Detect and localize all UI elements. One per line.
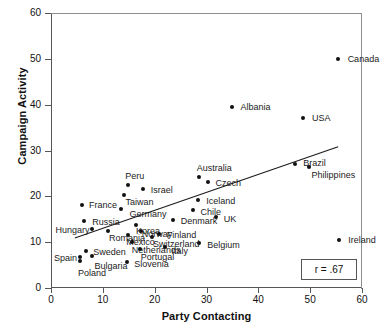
y-tick-40 <box>45 105 51 106</box>
data-point <box>191 208 195 212</box>
data-point-label: Slovenia <box>134 259 169 269</box>
x-tick-label-50: 50 <box>290 294 330 305</box>
x-tick-20 <box>155 288 156 293</box>
y-tick-label-0: 0 <box>1 282 41 293</box>
data-point <box>171 218 175 222</box>
data-point-label: Denmark <box>181 216 218 226</box>
data-point <box>307 165 311 169</box>
y-tick-label-60: 60 <box>1 7 41 18</box>
x-tick-label-40: 40 <box>238 294 278 305</box>
correlation-box: r = .67 <box>301 259 357 280</box>
data-point-label: Russia <box>92 217 120 227</box>
data-point <box>336 57 340 61</box>
data-point-label: Poland <box>78 268 106 278</box>
y-tick-label-30: 30 <box>1 145 41 156</box>
data-point-label: France <box>89 200 117 210</box>
data-point <box>293 162 297 166</box>
x-tick-label-30: 30 <box>187 294 227 305</box>
x-tick-label-20: 20 <box>135 294 175 305</box>
data-point-label: Germany <box>129 209 166 219</box>
x-tick-label-10: 10 <box>83 294 123 305</box>
plot-frame-top <box>51 13 362 14</box>
y-tick-label-50: 50 <box>1 53 41 64</box>
y-tick-label-20: 20 <box>1 190 41 201</box>
data-point <box>130 240 134 244</box>
data-point-label: Philippines <box>312 170 356 180</box>
x-tick-40 <box>258 288 259 293</box>
data-point-label: Canada <box>348 54 380 64</box>
y-tick-50 <box>45 59 51 60</box>
y-tick-label-10: 10 <box>1 236 41 247</box>
data-point-label: Chile <box>201 207 222 217</box>
data-point-label: Czech <box>216 178 242 188</box>
data-point-label: Hungary <box>55 225 89 235</box>
data-point <box>163 245 167 249</box>
y-tick-10 <box>45 242 51 243</box>
data-point <box>157 232 161 236</box>
data-point-label: Taiwan <box>126 197 154 207</box>
data-point <box>141 187 145 191</box>
y-tick-20 <box>45 196 51 197</box>
correlation-value: r = .67 <box>315 264 344 275</box>
data-point-label: USA <box>312 113 331 123</box>
data-point-label: Australia <box>197 163 232 173</box>
data-point-label: Ireland <box>348 235 376 245</box>
data-point-label: UK <box>224 214 237 224</box>
data-point <box>197 175 201 179</box>
x-tick-60 <box>362 288 363 293</box>
x-tick-0 <box>51 288 52 293</box>
x-tick-label-60: 60 <box>342 294 382 305</box>
data-point-label: Spain <box>54 253 77 263</box>
y-tick-label-40: 40 <box>1 99 41 110</box>
y-axis-title: Campaign Activity <box>16 16 28 216</box>
data-point-label: Iceland <box>206 196 235 206</box>
data-point <box>78 259 82 263</box>
x-axis-title: Party Contacting <box>51 310 362 322</box>
data-point <box>206 180 210 184</box>
x-tick-50 <box>310 288 311 293</box>
data-point-label: Israel <box>151 185 173 195</box>
y-tick-30 <box>45 151 51 152</box>
data-point-label: Sweden <box>93 247 126 257</box>
y-tick-60 <box>45 13 51 14</box>
x-tick-label-0: 0 <box>31 294 71 305</box>
data-point-label: Peru <box>125 171 144 181</box>
x-tick-30 <box>207 288 208 293</box>
data-point-label: Albania <box>240 102 270 112</box>
x-tick-10 <box>103 288 104 293</box>
data-point-label: Belgium <box>207 240 240 250</box>
data-point <box>138 247 142 251</box>
